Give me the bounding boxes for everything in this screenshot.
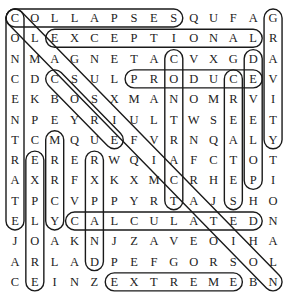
grid-cell[interactable]: U [84,69,104,89]
grid-cell[interactable]: A [45,49,65,69]
grid-cell[interactable]: D [243,49,263,69]
grid-cell[interactable]: O [243,252,263,272]
grid-cell[interactable]: C [223,69,243,89]
grid-cell[interactable]: R [204,252,224,272]
grid-cell[interactable]: T [204,211,224,231]
grid-cell[interactable]: I [144,150,164,170]
grid-cell[interactable]: F [65,170,85,190]
grid-cell[interactable]: Z [84,272,104,292]
grid-cell[interactable]: A [144,231,164,251]
grid-cell[interactable]: O [25,8,45,28]
grid-cell[interactable]: E [243,69,263,89]
grid-cell[interactable]: M [204,272,224,292]
grid-cell[interactable]: T [223,150,243,170]
grid-cell[interactable]: N [5,49,25,69]
grid-cell[interactable]: N [204,28,224,48]
grid-cell[interactable]: E [223,211,243,231]
grid-cell[interactable]: X [84,170,104,190]
grid-cell[interactable]: U [84,130,104,150]
grid-cell[interactable]: R [45,150,65,170]
grid-cell[interactable]: T [5,191,25,211]
grid-cell[interactable]: L [144,110,164,130]
grid-cell[interactable]: V [243,89,263,109]
grid-cell[interactable]: P [84,191,104,211]
grid-cell[interactable]: K [104,170,124,190]
grid-cell[interactable]: P [104,252,124,272]
grid-cell[interactable]: R [84,150,104,170]
grid-cell[interactable]: R [5,150,25,170]
grid-cell[interactable]: A [5,170,25,190]
grid-cell[interactable]: I [45,272,65,292]
grid-cell[interactable]: K [65,231,85,251]
grid-cell[interactable]: I [263,89,283,109]
grid-cell[interactable]: R [144,191,164,211]
grid-cell[interactable]: R [25,252,45,272]
grid-cell[interactable]: U [124,110,144,130]
grid-cell[interactable]: E [5,89,25,109]
grid-cell[interactable]: E [104,49,124,69]
grid-cell[interactable]: N [164,89,184,109]
grid-cell[interactable]: P [104,191,124,211]
grid-cell[interactable]: P [25,110,45,130]
grid-cell[interactable]: F [223,8,243,28]
grid-cell[interactable]: O [5,28,25,48]
grid-cell[interactable]: J [104,231,124,251]
grid-cell[interactable]: A [223,130,243,150]
grid-cell[interactable]: O [65,89,85,109]
grid-cell[interactable]: R [84,110,104,130]
grid-cell[interactable]: V [184,49,204,69]
grid-cell[interactable]: P [124,28,144,48]
grid-cell[interactable]: C [5,8,25,28]
grid-cell[interactable]: E [243,110,263,130]
grid-cell[interactable]: I [263,170,283,190]
grid-cell[interactable]: C [45,191,65,211]
grid-cell[interactable]: E [223,170,243,190]
grid-cell[interactable]: C [5,272,25,292]
grid-cell[interactable]: L [243,130,263,150]
grid-cell[interactable]: A [164,150,184,170]
grid-cell[interactable]: A [263,49,283,69]
grid-cell[interactable]: X [25,170,45,190]
grid-cell[interactable]: C [65,211,85,231]
grid-cell[interactable]: D [243,211,263,231]
grid-cell[interactable]: P [25,191,45,211]
grid-cell[interactable]: O [164,69,184,89]
grid-cell[interactable]: Q [65,130,85,150]
grid-cell[interactable]: T [124,49,144,69]
grid-cell[interactable]: O [184,252,204,272]
grid-cell[interactable]: O [184,28,204,48]
grid-cell[interactable]: G [164,252,184,272]
grid-cell[interactable]: J [5,231,25,251]
grid-cell[interactable]: L [164,211,184,231]
grid-cell[interactable]: C [84,28,104,48]
grid-cell[interactable]: F [144,252,164,272]
grid-cell[interactable]: E [25,150,45,170]
grid-cell[interactable]: L [104,69,124,89]
grid-cell[interactable]: P [243,170,263,190]
grid-cell[interactable]: L [104,211,124,231]
grid-cell[interactable]: I [104,110,124,130]
grid-cell[interactable]: Y [45,211,65,231]
grid-cell[interactable]: B [45,89,65,109]
grid-cell[interactable]: W [104,150,124,170]
grid-cell[interactable]: E [144,8,164,28]
grid-cell[interactable]: H [243,191,263,211]
grid-cell[interactable]: C [25,130,45,150]
grid-cell[interactable]: A [263,231,283,251]
grid-cell[interactable]: L [263,252,283,272]
grid-cell[interactable]: R [144,69,164,89]
grid-cell[interactable]: N [184,130,204,150]
grid-cell[interactable]: H [204,170,224,190]
grid-cell[interactable]: A [184,191,204,211]
grid-cell[interactable]: C [45,69,65,89]
grid-cell[interactable]: I [164,28,184,48]
grid-cell[interactable]: R [164,272,184,292]
grid-cell[interactable]: E [223,272,243,292]
grid-cell[interactable]: A [5,252,25,272]
grid-cell[interactable]: O [184,89,204,109]
grid-cell[interactable]: X [124,170,144,190]
grid-cell[interactable]: S [65,69,85,89]
grid-cell[interactable]: C [204,150,224,170]
grid-cell[interactable]: Q [204,130,224,150]
grid-cell[interactable]: O [25,231,45,251]
